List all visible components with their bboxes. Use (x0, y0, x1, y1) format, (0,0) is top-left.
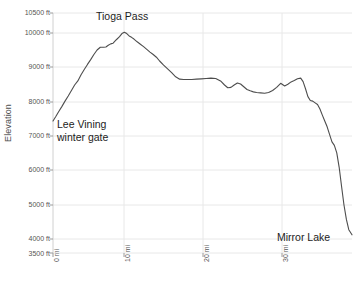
elevation-profile-chart: Elevation 10500 ft 10000 ft 9000 ft 8000… (0, 0, 354, 296)
annotation-tioga-pass: Tioga Pass (96, 10, 148, 23)
plot-area (0, 0, 354, 296)
annotation-lee-vining-winter-gate: Lee Vining winter gate (57, 118, 131, 143)
annotation-mirror-lake: Mirror Lake (277, 231, 330, 244)
x-axis-ticks (53, 253, 282, 257)
